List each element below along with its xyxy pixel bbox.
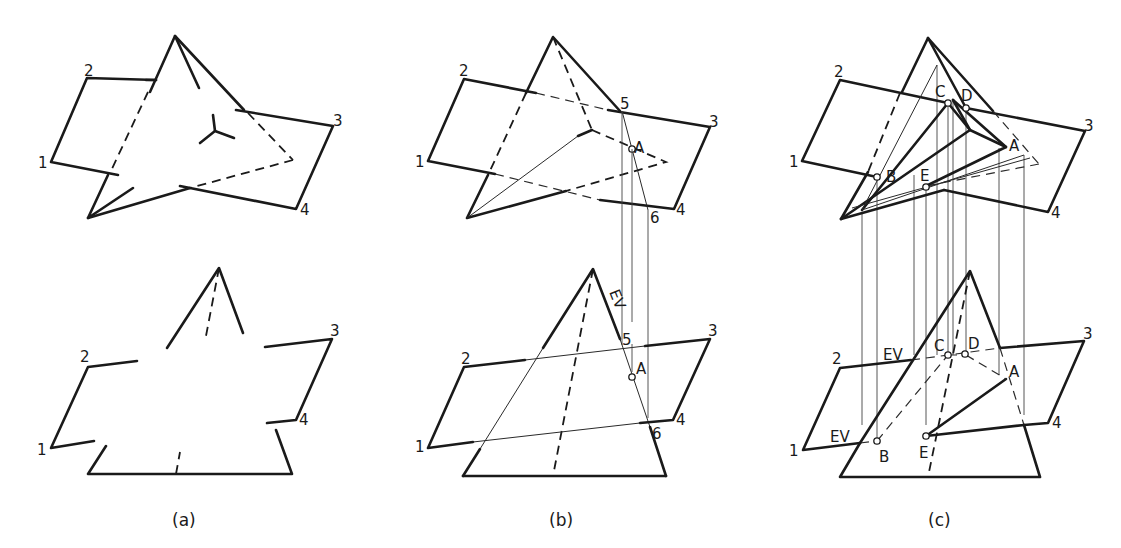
vertex-label-4: 4 [1051, 204, 1061, 222]
panel-c: 2 1 3 4 C D A B E [789, 38, 1094, 530]
point-label-5: 5 [622, 331, 632, 349]
vertex-label-2: 2 [80, 348, 90, 366]
panel-c-top-view: 2 1 3 4 C D A B E [789, 38, 1094, 222]
point-label-B: B [879, 448, 889, 466]
point-label-C: C [935, 83, 945, 101]
vertex-label-4: 4 [300, 201, 310, 219]
panel-a: 2 1 3 4 2 1 3 4 (a) [37, 36, 343, 530]
point-label-B: B [886, 168, 896, 186]
vertex-label-3: 3 [709, 113, 719, 131]
caption-c: (c) [928, 510, 951, 530]
point-C-top [945, 100, 951, 106]
panel-a-front-view: 2 1 3 4 [37, 268, 340, 474]
vertex-label-3: 3 [1084, 117, 1094, 135]
vertex-label-3: 3 [333, 112, 343, 130]
point-label-D: D [961, 87, 973, 105]
intersection-diagram: 2 1 3 4 2 1 3 4 (a) [0, 0, 1121, 548]
vertex-label-4: 4 [676, 201, 686, 219]
vertex-label-2: 2 [832, 350, 842, 368]
vertex-label-2: 2 [84, 62, 94, 80]
vertex-label-3: 3 [330, 322, 340, 340]
vertex-label-4: 4 [1052, 414, 1062, 432]
point-label-6: 6 [650, 209, 660, 227]
caption-b: (b) [549, 510, 573, 530]
point-label-C: C [934, 337, 944, 355]
vertex-label-1: 1 [789, 442, 799, 460]
point-label-A: A [634, 139, 645, 157]
panel-c-front-view: 2 1 3 4 EV EV C D A B E [789, 271, 1093, 477]
panel-b: 2 1 3 4 5 A 6 EV 2 1 [415, 37, 719, 530]
point-A-front [629, 374, 635, 380]
point-E-front [923, 433, 929, 439]
vertex-label-3: 3 [708, 322, 718, 340]
vertex-label-4: 4 [676, 411, 686, 429]
panel-a-top-view: 2 1 3 4 [38, 36, 343, 219]
point-label-5: 5 [620, 95, 630, 113]
panel-b-front-view: EV 2 1 3 4 5 A 6 [415, 269, 718, 476]
vertex-label-2: 2 [834, 63, 844, 81]
point-label-A: A [1009, 137, 1020, 155]
point-D-top [963, 105, 969, 111]
vertex-label-1: 1 [415, 438, 425, 456]
point-label-6: 6 [652, 425, 662, 443]
edge-view-label-lower: EV [830, 428, 850, 446]
point-B-front [874, 438, 880, 444]
point-C-front [945, 352, 951, 358]
point-label-D: D [968, 335, 980, 353]
vertex-label-1: 1 [37, 441, 47, 459]
point-label-E: E [920, 167, 929, 185]
vertex-label-1: 1 [415, 153, 425, 171]
edge-view-label-upper: EV [883, 346, 903, 364]
vertex-label-1: 1 [789, 153, 799, 171]
vertex-label-3: 3 [1083, 325, 1093, 343]
vertex-label-4: 4 [299, 411, 309, 429]
vertex-label-2: 2 [459, 62, 469, 80]
caption-a: (a) [172, 510, 196, 530]
vertex-label-2: 2 [461, 350, 471, 368]
vertex-label-1: 1 [38, 154, 48, 172]
point-label-E: E [919, 444, 928, 462]
point-B-top [874, 174, 880, 180]
point-label-A: A [636, 360, 647, 378]
point-label-A: A [1009, 363, 1020, 381]
